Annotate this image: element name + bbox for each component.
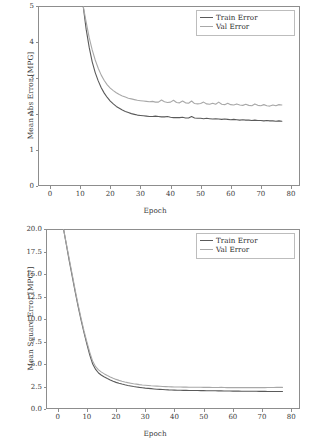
mean-abs-error-figure: Mean Abs Error [MPG] Epoch 012345 010203…: [0, 0, 310, 222]
val-line-swatch: [200, 26, 213, 27]
legend-item-train: Train Error: [200, 236, 290, 245]
legend-label-val: Val Error: [216, 22, 249, 31]
legend-top: Train Error Val Error: [196, 10, 295, 36]
train-line-swatch: [200, 17, 213, 18]
mean-square-error-figure: Mean Square Error [MPG²] Epoch 0.02.55.0…: [0, 223, 310, 445]
legend-label-train: Train Error: [216, 236, 258, 245]
legend-bottom: Train Error Val Error: [196, 233, 295, 259]
legend-item-val: Val Error: [200, 245, 290, 254]
val-line-swatch: [200, 249, 213, 250]
legend-item-val: Val Error: [200, 22, 290, 31]
legend-label-train: Train Error: [216, 13, 258, 22]
legend-label-val: Val Error: [216, 245, 249, 254]
legend-item-train: Train Error: [200, 13, 290, 22]
train-line-swatch: [200, 240, 213, 241]
